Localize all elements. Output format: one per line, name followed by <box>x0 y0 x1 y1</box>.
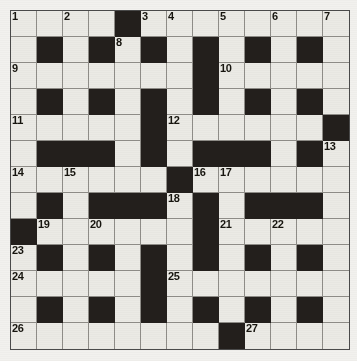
crossword-entry-cell[interactable]: 25 <box>167 271 193 297</box>
crossword-entry-cell[interactable] <box>141 219 167 245</box>
crossword-entry-cell[interactable] <box>219 89 245 115</box>
crossword-entry-cell[interactable] <box>167 245 193 271</box>
crossword-entry-cell[interactable]: 11 <box>11 115 37 141</box>
crossword-entry-cell[interactable] <box>63 245 89 271</box>
crossword-entry-cell[interactable] <box>297 115 323 141</box>
crossword-entry-cell[interactable] <box>167 323 193 349</box>
crossword-entry-cell[interactable] <box>115 219 141 245</box>
crossword-entry-cell[interactable] <box>271 89 297 115</box>
crossword-entry-cell[interactable] <box>37 271 63 297</box>
crossword-entry-cell[interactable] <box>323 167 349 193</box>
crossword-entry-cell[interactable] <box>167 89 193 115</box>
crossword-entry-cell[interactable] <box>37 115 63 141</box>
crossword-entry-cell[interactable] <box>297 167 323 193</box>
crossword-entry-cell[interactable] <box>271 245 297 271</box>
crossword-entry-cell[interactable] <box>219 297 245 323</box>
crossword-entry-cell[interactable]: 13 <box>323 141 349 167</box>
crossword-entry-cell[interactable] <box>219 193 245 219</box>
crossword-entry-cell[interactable] <box>219 245 245 271</box>
crossword-entry-cell[interactable] <box>115 271 141 297</box>
crossword-entry-cell[interactable]: 15 <box>63 167 89 193</box>
crossword-entry-cell[interactable]: 6 <box>271 11 297 37</box>
crossword-entry-cell[interactable] <box>63 323 89 349</box>
crossword-entry-cell[interactable] <box>271 323 297 349</box>
crossword-entry-cell[interactable]: 1 <box>11 11 37 37</box>
crossword-entry-cell[interactable]: 24 <box>11 271 37 297</box>
crossword-entry-cell[interactable]: 23 <box>11 245 37 271</box>
crossword-entry-cell[interactable] <box>141 167 167 193</box>
crossword-entry-cell[interactable] <box>115 167 141 193</box>
crossword-entry-cell[interactable] <box>219 271 245 297</box>
crossword-entry-cell[interactable]: 16 <box>193 167 219 193</box>
crossword-entry-cell[interactable] <box>271 141 297 167</box>
crossword-entry-cell[interactable] <box>115 115 141 141</box>
crossword-entry-cell[interactable] <box>193 11 219 37</box>
crossword-entry-cell[interactable] <box>245 115 271 141</box>
crossword-entry-cell[interactable] <box>297 63 323 89</box>
crossword-entry-cell[interactable]: 9 <box>11 63 37 89</box>
crossword-entry-cell[interactable] <box>323 63 349 89</box>
crossword-entry-cell[interactable] <box>245 219 271 245</box>
crossword-entry-cell[interactable] <box>115 63 141 89</box>
crossword-entry-cell[interactable] <box>167 37 193 63</box>
crossword-entry-cell[interactable] <box>63 271 89 297</box>
crossword-entry-cell[interactable] <box>89 323 115 349</box>
crossword-entry-cell[interactable] <box>11 37 37 63</box>
crossword-entry-cell[interactable]: 8 <box>115 37 141 63</box>
crossword-entry-cell[interactable]: 7 <box>323 11 349 37</box>
crossword-entry-cell[interactable]: 4 <box>167 11 193 37</box>
crossword-entry-cell[interactable]: 2 <box>63 11 89 37</box>
crossword-entry-cell[interactable] <box>297 11 323 37</box>
crossword-entry-cell[interactable] <box>115 297 141 323</box>
crossword-entry-cell[interactable] <box>323 89 349 115</box>
crossword-entry-cell[interactable] <box>245 271 271 297</box>
crossword-entry-cell[interactable]: 18 <box>167 193 193 219</box>
crossword-entry-cell[interactable] <box>63 89 89 115</box>
crossword-entry-cell[interactable]: 10 <box>219 63 245 89</box>
crossword-entry-cell[interactable] <box>167 63 193 89</box>
crossword-entry-cell[interactable] <box>63 115 89 141</box>
crossword-entry-cell[interactable] <box>37 63 63 89</box>
crossword-entry-cell[interactable] <box>37 167 63 193</box>
crossword-entry-cell[interactable]: 20 <box>89 219 115 245</box>
crossword-entry-cell[interactable] <box>323 219 349 245</box>
crossword-entry-cell[interactable] <box>323 37 349 63</box>
crossword-entry-cell[interactable] <box>193 115 219 141</box>
crossword-entry-cell[interactable] <box>167 297 193 323</box>
crossword-entry-cell[interactable] <box>323 323 349 349</box>
crossword-entry-cell[interactable] <box>115 245 141 271</box>
crossword-entry-cell[interactable] <box>297 271 323 297</box>
crossword-entry-cell[interactable] <box>37 323 63 349</box>
crossword-entry-cell[interactable]: 22 <box>271 219 297 245</box>
crossword-entry-cell[interactable] <box>11 89 37 115</box>
crossword-entry-cell[interactable] <box>63 219 89 245</box>
crossword-entry-cell[interactable] <box>37 11 63 37</box>
crossword-entry-cell[interactable] <box>271 167 297 193</box>
crossword-entry-cell[interactable] <box>11 193 37 219</box>
crossword-entry-cell[interactable] <box>115 141 141 167</box>
crossword-entry-cell[interactable]: 17 <box>219 167 245 193</box>
crossword-entry-cell[interactable]: 3 <box>141 11 167 37</box>
crossword-entry-cell[interactable] <box>115 323 141 349</box>
crossword-entry-cell[interactable] <box>271 115 297 141</box>
crossword-entry-cell[interactable] <box>323 271 349 297</box>
crossword-entry-cell[interactable] <box>297 219 323 245</box>
crossword-entry-cell[interactable] <box>271 63 297 89</box>
crossword-entry-cell[interactable] <box>245 63 271 89</box>
crossword-entry-cell[interactable]: 26 <box>11 323 37 349</box>
crossword-entry-cell[interactable] <box>11 141 37 167</box>
crossword-entry-cell[interactable] <box>167 141 193 167</box>
crossword-grid[interactable]: 1234567891011121314151617181920212223242… <box>10 10 350 350</box>
crossword-entry-cell[interactable] <box>89 63 115 89</box>
crossword-entry-cell[interactable] <box>219 115 245 141</box>
crossword-entry-cell[interactable] <box>115 89 141 115</box>
crossword-entry-cell[interactable] <box>141 323 167 349</box>
crossword-entry-cell[interactable] <box>89 115 115 141</box>
crossword-entry-cell[interactable] <box>245 11 271 37</box>
crossword-entry-cell[interactable] <box>245 167 271 193</box>
crossword-entry-cell[interactable] <box>193 271 219 297</box>
crossword-entry-cell[interactable] <box>297 323 323 349</box>
crossword-entry-cell[interactable] <box>63 297 89 323</box>
crossword-entry-cell[interactable] <box>63 37 89 63</box>
crossword-entry-cell[interactable]: 19 <box>37 219 63 245</box>
